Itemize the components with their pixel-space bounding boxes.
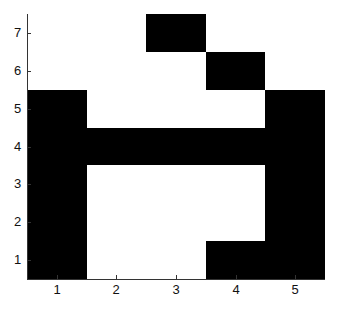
y-tick	[27, 71, 31, 72]
matrix-cell-filled	[27, 128, 87, 165]
x-tick	[295, 275, 296, 279]
matrix-cell-filled	[87, 128, 146, 165]
matrix-cell-filled	[206, 52, 265, 90]
matrix-cell-filled	[265, 241, 325, 279]
x-tick-label: 3	[166, 283, 186, 297]
matrix-cell-filled	[206, 128, 265, 165]
matrix-cell-filled	[206, 241, 265, 279]
x-tick-label: 2	[106, 283, 126, 297]
x-tick-label: 5	[285, 283, 305, 297]
x-tick	[176, 275, 177, 279]
y-tick	[27, 109, 31, 110]
y-tick-label: 7	[14, 26, 26, 40]
y-tick-label: 2	[14, 215, 26, 229]
x-axis-line	[27, 279, 325, 280]
x-tick-label: 4	[226, 283, 246, 297]
y-tick	[27, 184, 31, 185]
y-tick	[27, 222, 31, 223]
y-tick	[27, 33, 31, 34]
figure: 123456712345	[0, 0, 340, 311]
y-tick	[27, 147, 31, 148]
x-tick-label: 1	[47, 283, 67, 297]
matrix-cell-filled	[27, 241, 87, 279]
plot-area	[27, 14, 325, 279]
matrix-cell-filled	[265, 165, 325, 203]
y-tick-label: 5	[14, 102, 26, 116]
matrix-cell-filled	[27, 203, 87, 241]
y-tick-label: 6	[14, 64, 26, 78]
y-tick-label: 4	[14, 140, 26, 154]
x-tick	[236, 275, 237, 279]
matrix-cell-filled	[146, 128, 206, 165]
matrix-cell-filled	[265, 128, 325, 165]
matrix-cell-filled	[265, 90, 325, 128]
matrix-cell-filled	[146, 14, 206, 52]
matrix-cell-filled	[27, 90, 87, 128]
x-tick	[57, 275, 58, 279]
y-tick-label: 1	[14, 253, 26, 267]
matrix-cell-filled	[265, 203, 325, 241]
y-tick-label: 3	[14, 177, 26, 191]
x-tick	[116, 275, 117, 279]
y-tick	[27, 260, 31, 261]
matrix-cell-filled	[27, 165, 87, 203]
